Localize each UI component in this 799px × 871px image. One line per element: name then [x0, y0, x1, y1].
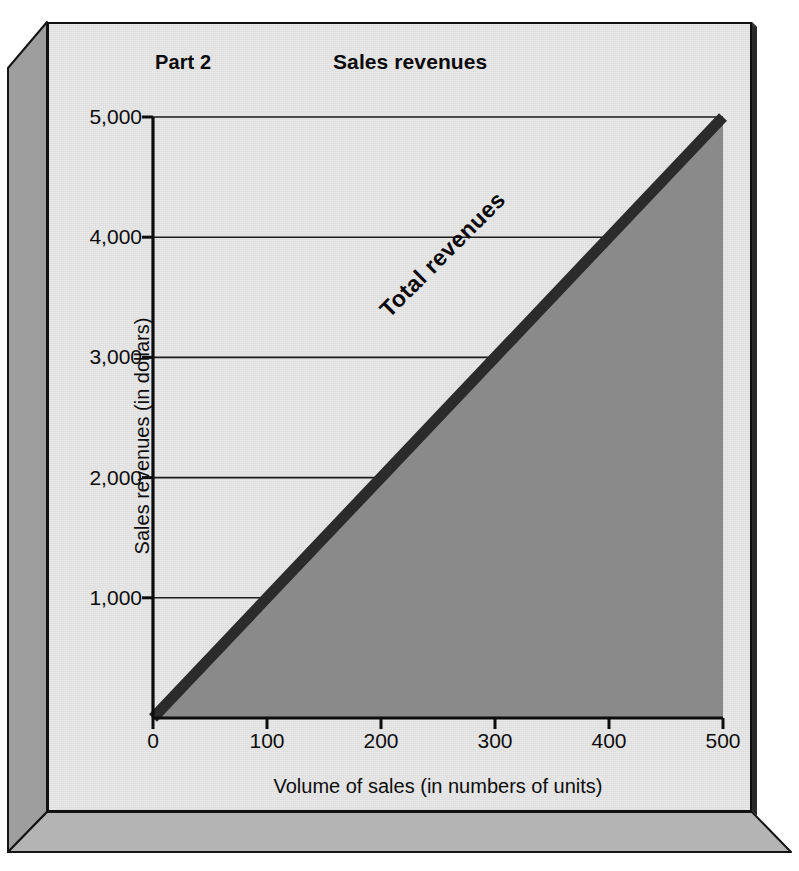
y-axis-title: Sales revenues (in dollars): [131, 317, 154, 554]
y-tick-label: 4,000: [89, 225, 142, 249]
plot-area: 1,0002,0003,0004,0005,000 01002003004005…: [153, 117, 723, 718]
bevel-left-face: [8, 22, 47, 852]
plot-graphics: [93, 107, 793, 747]
x-tick-label: 400: [591, 729, 626, 753]
x-tick-label: 200: [363, 729, 398, 753]
figure-canvas: Part 2 Sales revenues Sales revenues (in…: [0, 0, 799, 871]
y-tick-label: 1,000: [89, 586, 142, 610]
bevel-bottom-face: [8, 812, 791, 852]
x-tick-label: 500: [705, 729, 740, 753]
x-tick-label: 100: [249, 729, 284, 753]
x-axis-title: Volume of sales (in numbers of units): [153, 775, 723, 798]
series-total-revenues: [153, 117, 723, 718]
part-label: Part 2: [155, 51, 211, 74]
x-tick-label: 300: [477, 729, 512, 753]
x-tick-label: 0: [147, 729, 159, 753]
chart-title: Sales revenues: [333, 50, 487, 74]
y-tick-label: 5,000: [89, 105, 142, 129]
